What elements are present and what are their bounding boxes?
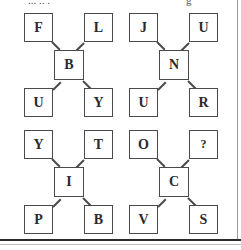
letter-box-bottom-left: U — [129, 88, 158, 117]
caption-fragment-right: g — [186, 0, 192, 6]
connector-bottom-left — [52, 199, 61, 208]
letter-box-bottom-right: R — [189, 88, 218, 117]
letter-box-center: B — [54, 50, 84, 80]
letter-box-center: C — [159, 167, 189, 197]
letter-box-center: I — [54, 167, 84, 197]
letter-box-top-left: J — [129, 13, 158, 42]
letter-box-top-left: O — [129, 130, 158, 159]
letter-box-top-right: L — [84, 13, 113, 42]
puzzle-4: O ? C V S — [129, 130, 234, 240]
letter-box-bottom-left: U — [24, 88, 53, 117]
connector-bottom-left — [52, 82, 61, 91]
letter-box-top-left: Y — [24, 130, 53, 159]
letter-box-bottom-right: Y — [84, 88, 113, 117]
letter-box-top-left: F — [24, 13, 53, 42]
letter-box-bottom-right: B — [84, 205, 113, 234]
letter-box-bottom-left: P — [24, 205, 53, 234]
caption-fragment-left: ... .. . — [28, 0, 50, 6]
puzzle-3: Y T I P B — [24, 130, 129, 240]
frame-bottom-rule — [0, 239, 241, 241]
cropped-caption: ... .. . g — [0, 0, 241, 4]
letter-box-center: N — [159, 50, 189, 80]
letter-box-top-right: ? — [189, 130, 218, 159]
puzzle-1: F L B U Y — [24, 13, 129, 123]
connector-bottom-left — [157, 199, 166, 208]
frame-bottom-rule-light — [0, 244, 241, 245]
frame-right-border — [237, 0, 238, 241]
letter-box-top-right: T — [84, 130, 113, 159]
connector-bottom-left — [157, 82, 166, 91]
letter-box-bottom-left: V — [129, 205, 158, 234]
letter-box-top-right: U — [189, 13, 218, 42]
puzzle-2: J U N U R — [129, 13, 234, 123]
letter-box-bottom-right: S — [189, 205, 218, 234]
